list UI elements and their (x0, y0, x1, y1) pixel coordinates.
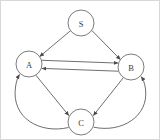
graph-edge-s-to-b (92, 30, 121, 59)
node-label-a: A (26, 60, 33, 70)
graph-node-b[interactable]: B (118, 54, 144, 80)
graph-edge-s-to-a (40, 31, 71, 57)
node-label-s: S (79, 19, 84, 29)
graph-node-c[interactable]: C (68, 109, 94, 135)
graph-edge-b-to-c (93, 78, 123, 116)
graph-figure: SABC (0, 0, 160, 140)
graph-edge-a-to-b (42, 60, 118, 63)
graph-edge-a-to-c (36, 75, 69, 116)
graph-node-a[interactable]: A (16, 51, 42, 77)
nodes-layer: SABC (16, 10, 144, 135)
node-label-c: C (78, 118, 84, 128)
graph-canvas: SABC (1, 1, 160, 140)
node-label-b: B (128, 63, 134, 73)
graph-edge-c-to-b (94, 77, 146, 129)
graph-node-s[interactable]: S (68, 10, 94, 36)
graph-edge-b-to-a (42, 68, 118, 71)
